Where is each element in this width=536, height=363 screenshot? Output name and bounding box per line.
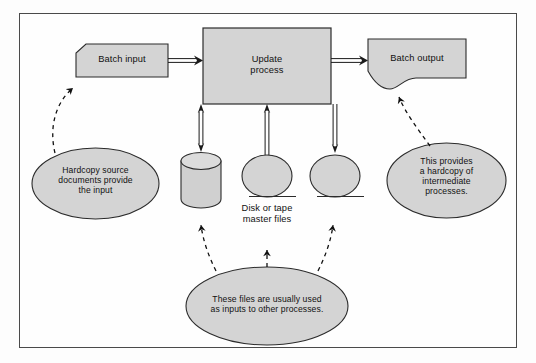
annotation-files-reused[interactable] [186,267,348,345]
diagram-page: Batch input Update process Batch output … [0,0,536,363]
connector-callout-source-to-input [53,88,73,153]
node-batch-output[interactable] [368,39,466,89]
node-tape-store-2[interactable] [310,155,364,197]
note-hardcopy-source-shape [32,148,159,219]
note-files-reused-shape [186,267,348,345]
connector-flow-process-to-tape2 [332,104,338,153]
annotation-intermediate-hardcopy[interactable] [387,143,506,218]
flowchart-canvas [0,0,536,363]
batch-output-shape [368,39,466,89]
connector-flow-input-to-process [168,55,203,65]
connector-flow-tape1-to-process [264,104,270,155]
update-process-shape [203,28,331,104]
node-tape-store-1[interactable] [242,155,296,197]
node-batch-input[interactable] [76,44,168,77]
node-disk-store[interactable] [181,153,221,209]
connector-flow-process-disk [198,104,204,152]
tape-reel-1-shape [242,155,292,197]
disk-cylinder-top [181,153,221,170]
connector-callout-note-to-tape2 [318,225,333,271]
node-update-process[interactable] [203,28,331,104]
connector-callout-note-to-output [399,97,430,146]
batch-input-shape [76,44,168,77]
connector-callout-note-to-disk [201,225,216,271]
note-intermediate-hardcopy-shape [387,143,506,218]
tape-reel-2-shape [310,155,360,197]
connector-flow-process-to-output [331,55,368,65]
annotation-hardcopy-source[interactable] [32,148,159,219]
